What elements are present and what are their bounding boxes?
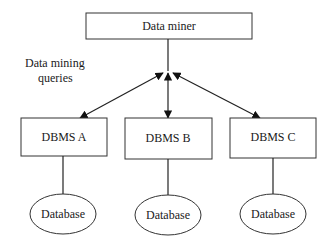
database-b-label: Database bbox=[146, 208, 190, 222]
database-c-label: Database bbox=[251, 207, 295, 221]
queries-label: Data mining queries bbox=[25, 56, 85, 85]
data-miner-node: Data miner bbox=[86, 13, 252, 39]
queries-label-line1: Data mining bbox=[25, 56, 85, 70]
data-miner-label: Data miner bbox=[142, 19, 196, 33]
dbms-a-node: DBMS A Database bbox=[21, 118, 107, 234]
arrow-to-dbms-a bbox=[80, 73, 163, 118]
dbms-b-node: DBMS B Database bbox=[125, 118, 212, 235]
architecture-diagram: Data miner Data mining queries DBMS A Da… bbox=[0, 0, 332, 236]
dbms-a-label: DBMS A bbox=[41, 130, 86, 144]
queries-label-line2: queries bbox=[38, 71, 73, 85]
dbms-b-label: DBMS B bbox=[145, 131, 190, 145]
arrow-to-dbms-c bbox=[173, 73, 260, 118]
dbms-c-label: DBMS C bbox=[250, 130, 295, 144]
dbms-c-node: DBMS C Database bbox=[230, 118, 316, 234]
database-a-label: Database bbox=[41, 207, 85, 221]
